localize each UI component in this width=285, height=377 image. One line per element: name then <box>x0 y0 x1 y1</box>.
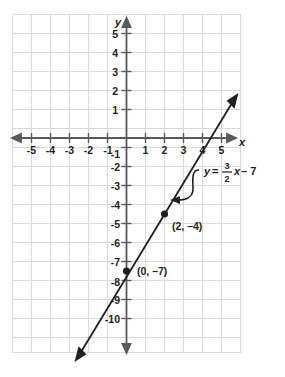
point-label-0-neg7: (0, –7) <box>137 265 167 277</box>
point-marker <box>161 210 168 217</box>
y-tick-label: 2 <box>112 85 118 97</box>
y-tick-label: -8 <box>111 276 120 288</box>
equation-variable: x <box>233 165 241 177</box>
y-tick-label: -7 <box>111 256 120 268</box>
y-tick-label: 1 <box>112 104 118 116</box>
x-tick-label: -3 <box>65 144 74 156</box>
x-axis-arrow-left <box>12 134 21 142</box>
point-marker <box>123 267 130 274</box>
y-tick-label: -4 <box>111 199 120 211</box>
y-tick-label: -6 <box>111 237 120 249</box>
y-axis-arrow-down <box>123 344 131 353</box>
y-tick-label: 3 <box>112 66 118 78</box>
y-tick-label: 5 <box>112 28 118 40</box>
line-arrow-upper <box>228 95 237 107</box>
equation-equals: = <box>212 165 218 177</box>
x-tick-label: -4 <box>46 144 55 156</box>
x-tick-label: 3 <box>181 144 187 156</box>
y-axis-arrow-up <box>123 18 131 27</box>
line-arrow-lower <box>76 348 85 360</box>
x-axis-arrow-right <box>227 134 236 142</box>
y-tick-label: -5 <box>111 218 120 230</box>
x-tick-label: -5 <box>27 144 36 156</box>
x-axis-label: x <box>238 136 246 148</box>
y-axis-label: y <box>114 16 122 28</box>
y-tick-label: 4 <box>112 47 118 59</box>
equation-numerator: 3 <box>224 161 229 171</box>
graph-canvas: -5 -4 -3 -2 -1 1 2 3 4 5 5 4 3 2 1 -1 -2… <box>0 0 285 377</box>
equation-constant: – 7 <box>241 165 256 177</box>
plotted-line <box>76 95 237 360</box>
point-label-2-neg4: (2, –4) <box>172 220 202 232</box>
x-tick-label: 2 <box>162 144 168 156</box>
y-tick-label: -2 <box>111 161 120 173</box>
x-tick-label: -2 <box>84 144 93 156</box>
y-tick-label: -3 <box>111 180 120 192</box>
y-tick-label: -10 <box>105 313 120 325</box>
coordinate-graph-figure: -5 -4 -3 -2 -1 1 2 3 4 5 5 4 3 2 1 -1 -2… <box>0 0 285 377</box>
x-tick-label: 1 <box>143 144 149 156</box>
y-tick-label: -1 <box>111 148 120 160</box>
x-tick-label: 5 <box>219 144 225 156</box>
equation-label: y = 3 2 x – 7 <box>203 161 256 184</box>
equation-denominator: 2 <box>224 174 229 184</box>
equation-lhs: y <box>203 165 211 177</box>
